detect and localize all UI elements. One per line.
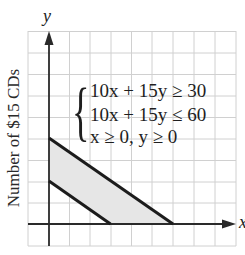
- y-variable-label: y: [43, 6, 51, 27]
- system-brace: {: [72, 80, 89, 142]
- y-axis-arrow-icon: [45, 31, 54, 45]
- inequality-3: x ≥ 0, y ≥ 0: [90, 126, 177, 147]
- y-axis-title: Number of $15 CDs: [4, 68, 24, 206]
- x-variable-label: x: [239, 212, 245, 233]
- inequality-1: 10x + 15y ≥ 30: [90, 80, 206, 101]
- y-axis-title-container: Number of $15 CDs: [2, 40, 26, 235]
- x-axis-arrow-icon: [222, 220, 236, 229]
- inequality-2: 10x + 15y ≤ 60: [90, 104, 206, 125]
